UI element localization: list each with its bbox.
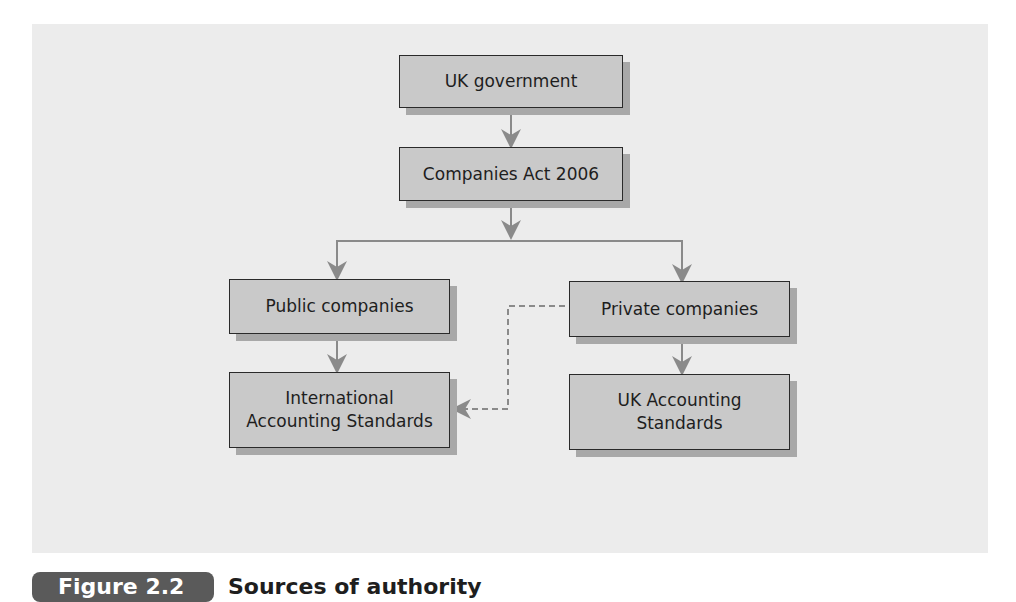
node-public-companies: Public companies <box>229 279 450 334</box>
node-label: Private companies <box>601 298 758 321</box>
node-label: UK Accounting Standards <box>610 389 749 435</box>
node-ukas: UK Accounting Standards <box>569 374 790 450</box>
figure-title: Sources of authority <box>228 572 482 602</box>
dashed-private-to-ias <box>455 306 565 409</box>
node-private-companies: Private companies <box>569 281 790 337</box>
node-label: Companies Act 2006 <box>423 163 599 186</box>
node-uk-government: UK government <box>399 55 623 108</box>
node-companies-act: Companies Act 2006 <box>399 147 623 201</box>
branch-line <box>337 241 682 282</box>
node-ias: International Accounting Standards <box>229 372 450 448</box>
node-label: UK government <box>445 70 578 93</box>
node-label: Public companies <box>265 295 413 318</box>
node-label: International Accounting Standards <box>244 387 435 433</box>
figure-label: Figure 2.2 <box>32 572 214 602</box>
